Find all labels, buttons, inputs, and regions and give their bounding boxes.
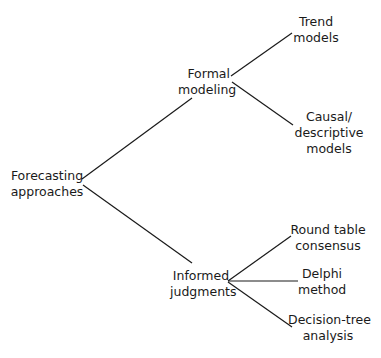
node-line: modeling [178,82,236,98]
node-line: consensus [290,238,366,254]
node-informed-judgments: Informed judgments [170,268,232,300]
node-line: descriptive [292,125,366,141]
node-forecasting-approaches: Forecasting approaches [10,168,84,200]
edge-informed-decisiontree [228,282,292,327]
node-decision-tree-analysis: Decision-tree analysis [288,312,368,344]
edge-root-formal [82,98,192,179]
node-line: Decision-tree [288,312,368,328]
node-round-table-consensus: Round table consensus [290,222,366,254]
node-formal-modeling: Formal modeling [178,66,236,98]
node-line: Forecasting [10,168,84,184]
edge-formal-causal [232,82,293,125]
node-line: Causal/ [292,109,366,125]
node-trend-models: Trend models [290,14,342,46]
node-line: models [290,30,342,46]
node-line: method [298,282,346,298]
node-line: Delphi [298,266,346,282]
node-delphi-method: Delphi method [298,266,346,298]
node-line: Trend [290,14,342,30]
node-line: judgments [170,284,232,300]
node-line: models [292,141,366,157]
node-line: Round table [290,222,366,238]
node-line: Formal [178,66,236,82]
node-causal-descriptive-models: Causal/ descriptive models [292,109,366,157]
node-line: analysis [288,328,368,344]
node-line: approaches [10,184,84,200]
edge-formal-trend [231,33,292,76]
node-line: Informed [170,268,232,284]
edge-root-informed [83,185,192,263]
edge-informed-roundtable [228,236,291,281]
